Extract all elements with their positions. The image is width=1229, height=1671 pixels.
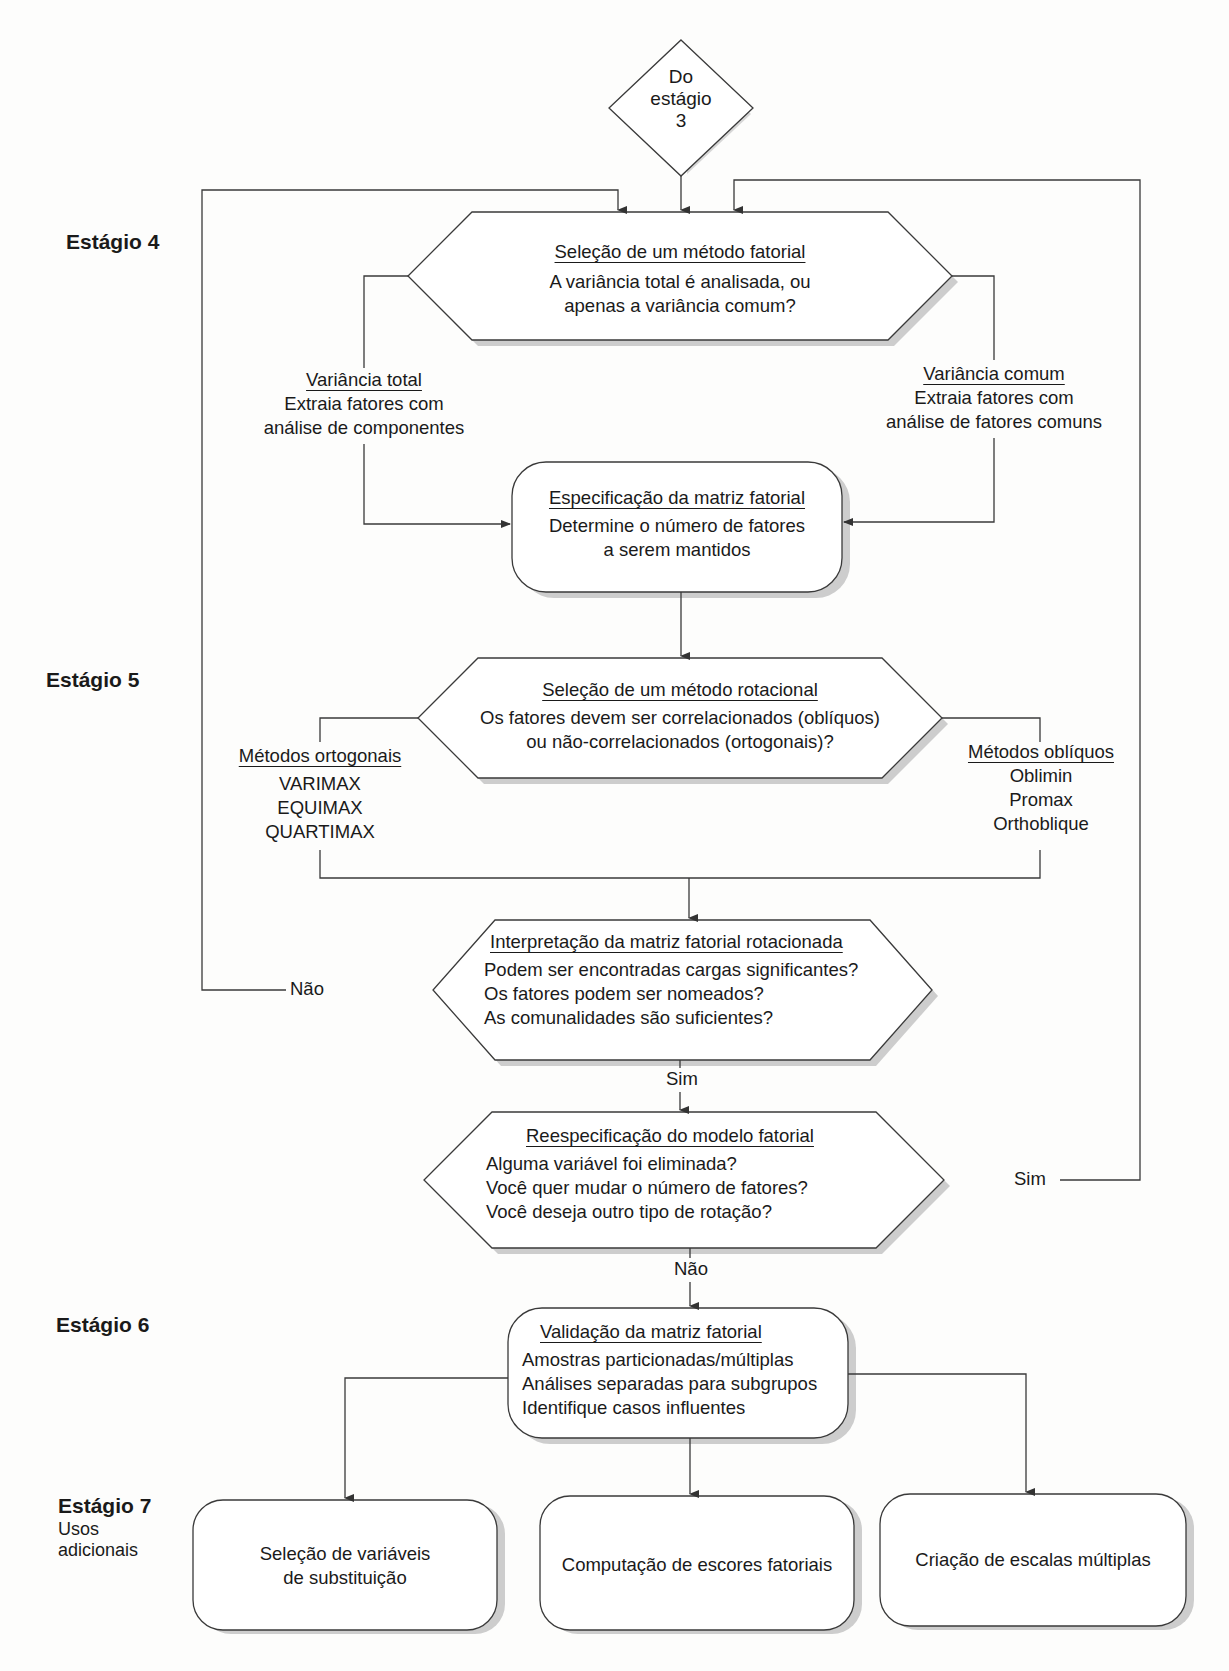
stage-7-label: Estágio 7 [58,1494,151,1518]
start-node: Do estágio 3 [641,66,721,132]
oblique-methods: Métodos oblíquos Oblimin Promax Orthobli… [946,740,1136,836]
edge-label-respec-yes: Sim [1010,1168,1050,1190]
respecification-decision: Reespecificação do modelo fatorial Algum… [486,1124,906,1224]
factor-matrix-spec-node: Especificação da matriz fatorial Determi… [512,486,842,562]
validation-node: Validação da matriz fatorial Amostras pa… [522,1320,842,1420]
total-variance-branch: Variância total Extraia fatores com anál… [254,368,474,440]
use-surrogate-variables: Seleção de variáveis de substituição [193,1542,497,1590]
common-variance-branch: Variância comum Extraia fatores com anál… [876,362,1112,434]
stage-5-label: Estágio 5 [46,668,139,692]
edge-label-respec-no: Não [670,1258,712,1280]
use-factor-scores: Computação de escores fatoriais [540,1553,854,1577]
interpretation-decision: Interpretação da matriz fatorial rotacio… [484,930,904,1030]
stage-4-label: Estágio 4 [66,230,159,254]
orthogonal-methods: Métodos ortogonais VARIMAX EQUIMAX QUART… [220,744,420,844]
stage-6-label: Estágio 6 [56,1313,149,1337]
edge-label-interp-yes: Sim [662,1068,702,1090]
rotation-method-decision: Seleção de um método rotacional Os fator… [440,678,920,754]
stage-7-sublabel: Usos adicionais [58,1519,138,1561]
edge-label-interp-no: Não [286,978,328,1000]
node-title: Seleção de um método fatorial [470,240,890,264]
factor-method-decision: Seleção de um método fatorial A variânci… [470,240,890,318]
use-summated-scales: Criação de escalas múltiplas [880,1548,1186,1572]
